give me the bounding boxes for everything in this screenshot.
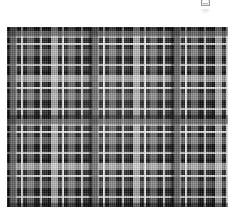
tartan-swatch <box>7 27 228 207</box>
tartan-weave-texture <box>7 27 228 207</box>
clipped-square-icon <box>201 0 210 6</box>
page-root <box>0 0 238 220</box>
clipped-square-icon-shadow <box>200 9 211 14</box>
